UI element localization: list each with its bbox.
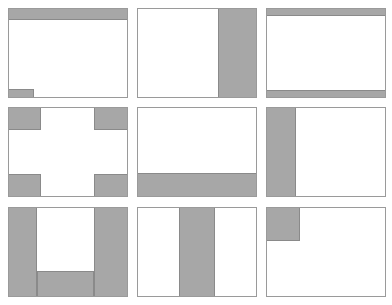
- panel-footer-band: [137, 107, 257, 197]
- panel-u-shape: [8, 207, 128, 297]
- shaded-region: [94, 107, 128, 130]
- shaded-region: [94, 207, 128, 297]
- shaded-region: [266, 8, 386, 16]
- panel-top-left-block: [266, 207, 386, 297]
- panel-header-and-footer: [266, 8, 386, 98]
- shaded-region: [137, 173, 257, 197]
- shaded-region: [266, 207, 300, 241]
- shaded-region: [266, 107, 296, 197]
- panel-header-with-bottom-left-tab: [8, 8, 128, 98]
- shaded-region: [37, 271, 94, 297]
- shaded-region: [8, 8, 128, 20]
- panel-center-column: [137, 207, 257, 297]
- shaded-region: [94, 174, 128, 197]
- shaded-region: [218, 8, 257, 98]
- shaded-region: [8, 89, 34, 98]
- shaded-region: [8, 107, 41, 130]
- panel-four-corners: [8, 107, 128, 197]
- panel-left-sidebar: [266, 107, 386, 197]
- shaded-region: [179, 207, 215, 297]
- shaded-region: [8, 207, 37, 297]
- shaded-region: [266, 90, 386, 98]
- shaded-region: [8, 174, 41, 197]
- panel-right-sidebar: [137, 8, 257, 98]
